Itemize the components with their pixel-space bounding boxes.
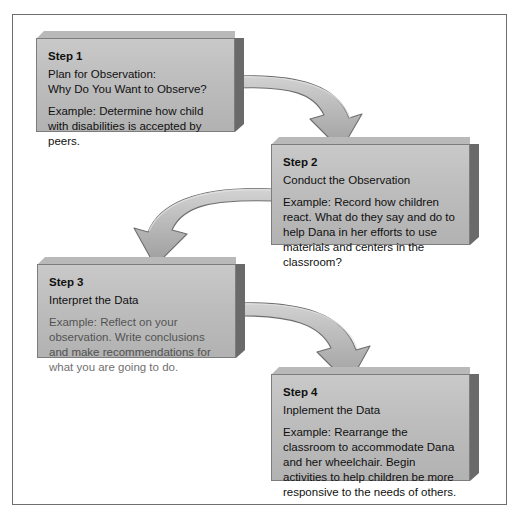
box-side-panel <box>470 144 479 245</box>
box-face: Step 1 Plan for Observation: Why Do You … <box>36 38 235 132</box>
step-title: Step 1 <box>48 49 223 64</box>
box-side-panel <box>470 374 479 481</box>
step-box-3[interactable]: Step 3 Interpret the Data Example: Refle… <box>37 257 245 358</box>
box-face: Step 2 Conduct the Observation Example: … <box>271 144 470 245</box>
step-title: Step 4 <box>283 385 458 400</box>
step-subtitle: Interpret the Data <box>49 293 224 308</box>
step-title: Step 3 <box>49 275 224 290</box>
box-side-panel <box>236 264 245 358</box>
step-example: Example: Reflect on your observation. Wr… <box>49 315 224 375</box>
step-example: Example: Rearrange the classroom to acco… <box>283 425 458 500</box>
step-example: Example: Record how children react. What… <box>283 195 458 270</box>
step-box-1[interactable]: Step 1 Plan for Observation: Why Do You … <box>36 31 244 132</box>
step-subtitle: Plan for Observation: Why Do You Want to… <box>48 67 223 97</box>
diagram-page: Step 1 Plan for Observation: Why Do You … <box>0 0 523 523</box>
step-box-4[interactable]: Step 4 Inplement the Data Example: Rearr… <box>271 367 479 481</box>
step-subtitle: Inplement the Data <box>283 403 458 418</box>
box-face: Step 3 Interpret the Data Example: Refle… <box>37 264 236 358</box>
step-title: Step 2 <box>283 155 458 170</box>
step-example: Example: Determine how child with disabi… <box>48 104 223 149</box>
box-side-panel <box>235 38 244 132</box>
box-face: Step 4 Inplement the Data Example: Rearr… <box>271 374 470 481</box>
step-subtitle: Conduct the Observation <box>283 173 458 188</box>
step-box-2[interactable]: Step 2 Conduct the Observation Example: … <box>271 137 479 245</box>
